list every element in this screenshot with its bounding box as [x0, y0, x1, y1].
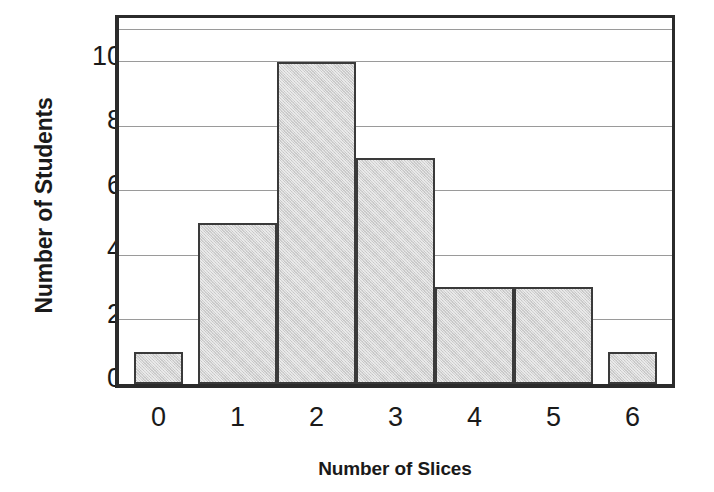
plot-inner [119, 18, 672, 384]
x-tick-label-3: 3 [366, 404, 426, 431]
y-tick-label-8: 8 [62, 107, 122, 134]
bar-0 [134, 352, 183, 384]
bar-chart: Number of Students 0 2 4 6 8 10 0 1 2 3 … [0, 0, 714, 492]
gridline-8 [119, 126, 672, 127]
x-tick-label-1: 1 [208, 404, 268, 431]
bar-1 [198, 223, 277, 384]
bar-4 [435, 287, 514, 384]
y-axis-title: Number of Students [31, 76, 58, 336]
x-axis-title: Number of Slices [115, 458, 675, 480]
x-tick-label-2: 2 [287, 404, 347, 431]
y-tick-label-4: 4 [62, 236, 122, 263]
bar-5 [514, 287, 593, 384]
x-tick-label-5: 5 [524, 404, 584, 431]
plot-area [115, 15, 675, 388]
y-tick-label-0: 0 [62, 365, 122, 392]
bar-6 [608, 352, 657, 384]
x-tick-label-4: 4 [445, 404, 505, 431]
bar-2 [277, 62, 356, 384]
gridline-11 [119, 29, 672, 30]
y-tick-label-2: 2 [62, 301, 122, 328]
gridline-10 [119, 61, 672, 62]
y-tick-label-10: 10 [62, 43, 122, 70]
x-tick-label-0: 0 [129, 404, 189, 431]
bar-3 [356, 158, 435, 384]
x-tick-label-6: 6 [603, 404, 663, 431]
y-tick-label-6: 6 [62, 172, 122, 199]
